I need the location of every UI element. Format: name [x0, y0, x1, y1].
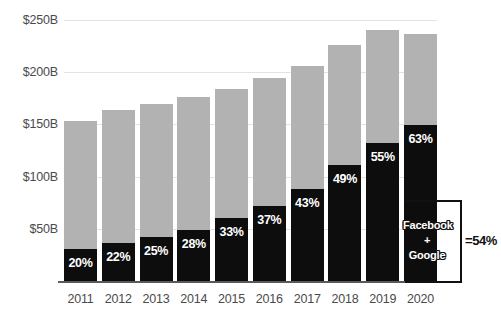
bar-group[interactable]: 33% — [215, 89, 248, 281]
bar-group[interactable]: 43% — [291, 66, 324, 281]
y-axis-tick-label: $200B — [2, 65, 58, 79]
y-axis: $250B$200B$150B$100B$50B — [0, 20, 58, 281]
bar-group[interactable]: 20% — [64, 121, 97, 281]
gridline — [64, 20, 437, 21]
bracket-top-line — [405, 200, 462, 202]
bar-percent-label: 37% — [253, 213, 286, 227]
bar-percent-label: 25% — [140, 244, 173, 258]
y-axis-tick-label: $150B — [2, 117, 58, 131]
annotation-line-3: Google — [403, 248, 451, 263]
bar-group[interactable]: 55% — [366, 30, 399, 281]
bar-percent-label: 33% — [215, 225, 248, 239]
bar-percent-label: 49% — [328, 172, 361, 186]
bar-percent-label: 43% — [291, 196, 324, 210]
bar-percent-label: 63% — [404, 132, 437, 146]
bar-group[interactable]: 22% — [102, 110, 135, 281]
annotation-line-2: + — [403, 233, 451, 248]
annotation-line-1: Facebook — [403, 218, 451, 233]
bar-group[interactable]: 25% — [140, 104, 173, 281]
bar-percent-label: 55% — [366, 150, 399, 164]
annotation-label: Facebook + Google — [403, 218, 451, 263]
x-axis-line — [58, 281, 439, 283]
bar-group[interactable]: 37% — [253, 78, 286, 281]
bar-group[interactable]: 49% — [328, 45, 361, 281]
x-axis-tick-label: 2020 — [396, 292, 446, 306]
bar-percent-label: 20% — [64, 256, 97, 270]
bar-percent-label: 28% — [177, 237, 210, 251]
y-axis-tick-label: $100B — [2, 170, 58, 184]
bar-percent-label: 22% — [102, 250, 135, 264]
bar-chart: $250B$200B$150B$100B$50B 20%22%25%28%33%… — [0, 0, 501, 324]
y-axis-tick-label: $50B — [2, 222, 58, 236]
bracket-bottom-line — [405, 281, 462, 283]
y-axis-tick-label: $250B — [2, 13, 58, 27]
facebook-google-annotation: Facebook + Google — [405, 200, 462, 283]
annotation-result: =54% — [465, 233, 497, 248]
plot-area: 20%22%25%28%33%37%43%49%55%63% — [64, 20, 437, 281]
bracket-right-line — [460, 200, 462, 283]
bar-group[interactable]: 28% — [177, 97, 210, 281]
